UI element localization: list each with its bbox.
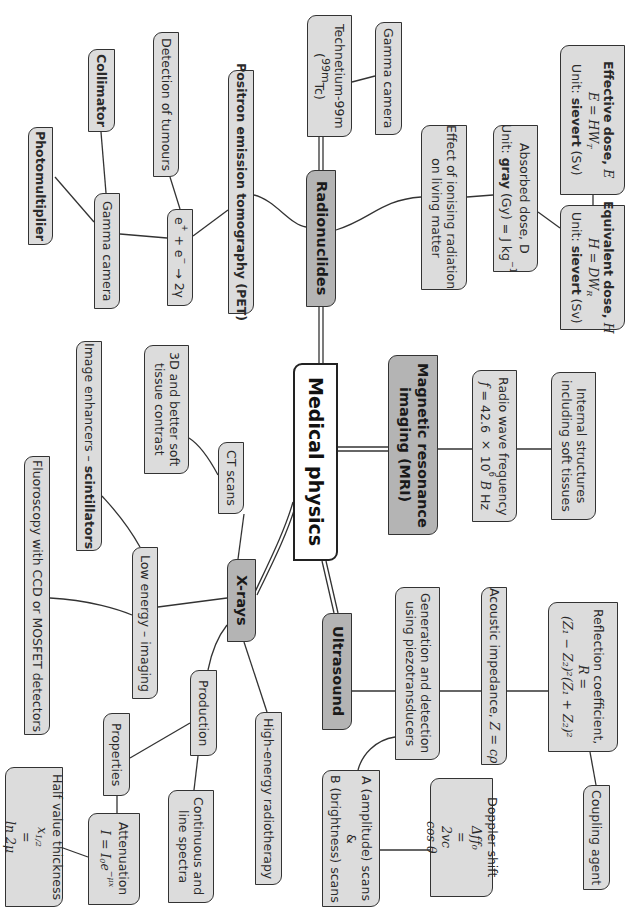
reflection-title: Reflection coefficient, [591,609,606,744]
node-half-value-thickness: Half value thickness x1/2 = ln 2 μ [5,767,63,907]
radio-wave-title: Radio wave frequency [496,377,511,516]
technetium-line2: (99mTc) [312,24,331,129]
root-to-ultrasound-link [322,561,338,613]
internal-line1: Internal structures [574,380,589,512]
doppler-title: Doppler shift [484,797,499,877]
low-energy-label: Low energy – imaging [137,555,152,692]
equivalent-dose-title: Equivalent dose, H [601,201,616,334]
root-node-medical-physics: Medical physics [293,363,338,561]
scans-line1: A (amplitude) scans [359,775,374,903]
mri-label-line2: imaging (MRI) [395,363,413,528]
node-effect-ionising-radiation: Effect of ionising radiation on living m… [421,125,467,290]
node-fluoroscopy: Fluoroscopy with CCD or MOSFET detectors [24,456,50,735]
generation-line1: Generation and detection [418,593,433,753]
gamma-camera-top-label: Gamma camera [381,28,396,129]
coupling-label: Coupling agent [589,790,604,885]
node-ct-detail: 3D and better soft tissue contrast [144,345,189,474]
ultrasound-label: Ultrasound [328,626,346,716]
effective-dose-unit: Unit: sievert (Sv) [569,61,584,178]
half-value-title: Half value thickness [50,774,65,900]
technetium-line1: Technetium-99m [332,24,347,129]
topic-ultrasound: Ultrasound [322,613,352,730]
node-pet: Positron emission tomography (PET) [228,70,254,314]
photomultiplier-label: Photomultiplier [33,131,48,241]
node-photomultiplier: Photomultiplier [28,127,53,245]
ct-detail-line1: 3D and better soft [167,352,182,467]
image-enhancers-label: Image enhancers – scintillators [81,343,96,549]
attenuation-title: Attenuation [116,822,131,895]
node-spectra: Continuous and line spectra [168,790,214,903]
xrays-label: X-rays [233,575,251,626]
radio-wave-formula: f = 42.6 × 106 B Hz [478,377,495,516]
node-radio-wave-frequency: Radio wave frequency f = 42.6 × 106 B Hz [472,370,517,522]
node-image-enhancers: Image enhancers – scintillators [76,341,102,551]
high-energy-label: High-energy radiotherapy [261,718,276,879]
half-value-formula: x1/2 = ln 2 μ [3,774,50,900]
pet-label: Positron emission tomography (PET) [233,63,248,321]
reflection-formula: R = (Z₁ − Z₂)² (Z₁ + Z₂)² [560,609,591,744]
ct-scans-label: CT scans [223,450,238,506]
doppler-formula: Δf f₀ = 2v c cos θ [423,797,484,877]
absorbed-dose-title: Absorbed dose, D [517,124,532,273]
topic-mri: Magnetic resonance imaging (MRI) [388,355,438,535]
internal-line2: including soft tissues [558,380,573,512]
fluoroscopy-label: Fluoroscopy with CCD or MOSFET detectors [29,460,44,732]
node-annihilation: e+ + e− → 2γ [167,209,193,306]
properties-label: Properties [109,723,124,786]
attenuation-formula: I = I0e−μx [97,822,115,895]
detection-label: Detection of tumours [158,38,173,171]
node-gamma-camera-radionuclide: Gamma camera [375,22,402,135]
node-internal-structures: Internal structures including soft tissu… [551,372,596,520]
effective-dose-formula: E = HWT [584,61,600,178]
absorbed-dose-unit: Unit: gray (Gy) = J kg−1 [499,124,516,273]
topic-radionuclides: Radionuclides [306,170,336,307]
acoustic-impedance-label: Acoustic impedance, Z = cρ [486,588,501,763]
generation-line2: using piezotransducers [402,593,417,753]
spectra-line1: Continuous and [191,797,206,895]
effect-line1: Effect of ionising radiation [444,125,459,289]
node-doppler-shift: Doppler shift Δf f₀ = 2v c cos θ [430,778,493,897]
node-properties: Properties [103,713,130,796]
node-attenuation: Attenuation I = I0e−μx [88,813,140,905]
equivalent-dose-unit: Unit: sievert (Sv) [569,201,584,334]
collimator-label: Collimator [94,54,109,127]
node-high-energy-radiotherapy: High-energy radiotherapy [255,712,282,885]
node-absorbed-dose: Absorbed dose, D Unit: gray (Gy) = J kg−… [493,125,538,272]
node-detection-tumours: Detection of tumours [153,32,179,177]
node-effective-dose: Effective dose, E E = HWT Unit: sievert … [560,45,625,195]
production-label: Production [196,680,211,747]
root-label: Medical physics [304,377,327,546]
node-gamma-camera-pet: Gamma camera [94,193,120,309]
node-technetium: Technetium-99m (99mTc) [307,15,352,137]
gamma-camera-pet-label: Gamma camera [99,201,114,302]
node-generation-detection: Generation and detection using piezotran… [395,587,440,760]
ct-detail-line2: tissue contrast [151,352,166,467]
node-low-energy-imaging: Low energy – imaging [132,547,158,699]
node-production: Production [190,670,217,756]
root-to-mri-link [338,447,388,451]
effect-line2: on living matter [429,125,444,289]
topic-xrays: X-rays [227,559,256,642]
node-coupling-agent: Coupling agent [583,785,610,890]
equivalent-dose-formula: H = DWR [584,201,600,334]
scans-line2: & [343,775,358,903]
node-collimator: Collimator [88,49,115,132]
scans-line3: B (brightness) scans [328,775,343,903]
node-acoustic-impedance: Acoustic impedance, Z = cρ [481,587,507,765]
node-equivalent-dose: Equivalent dose, H H = DWR Unit: sievert… [560,205,625,330]
effective-dose-title: Effective dose, E [601,61,616,178]
node-a-b-scans: A (amplitude) scans & B (brightness) sca… [322,770,380,907]
radionuclides-label: Radionuclides [312,181,330,295]
root-to-xrays-link [255,502,296,595]
node-ct-scans: CT scans [218,442,244,514]
annihilation-equation: e+ + e− → 2γ [171,217,188,298]
spectra-line2: line spectra [176,797,191,895]
mri-label-line1: Magnetic resonance [413,363,431,528]
node-reflection-coefficient: Reflection coefficient, R = (Z₁ − Z₂)² (… [548,602,618,752]
